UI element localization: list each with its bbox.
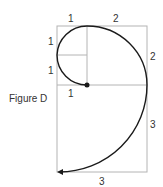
label-right-lower: 3 — [150, 119, 156, 130]
label-center-bottom: 1 — [68, 88, 74, 99]
label-left-lower: 1 — [48, 65, 54, 76]
label-right-upper: 2 — [150, 51, 156, 62]
label-bottom: 3 — [99, 176, 105, 187]
fibonacci-spiral-diagram: 1 2 1 1 1 2 3 3 Figure D — [0, 0, 163, 187]
figure-title: Figure D — [9, 93, 47, 104]
spiral-start-dot — [85, 83, 90, 88]
label-left-upper: 1 — [48, 36, 54, 47]
arrow-head-icon — [57, 169, 63, 175]
spiral-curve — [57, 26, 147, 172]
label-top-left: 1 — [68, 13, 74, 24]
label-top-right: 2 — [113, 13, 119, 24]
